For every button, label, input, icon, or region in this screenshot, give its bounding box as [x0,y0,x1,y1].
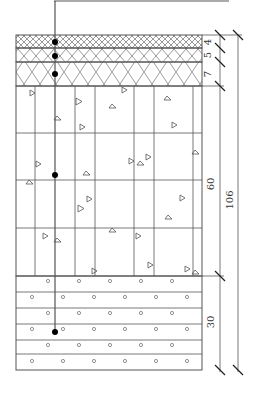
dim-label-total: 106 [224,190,235,209]
layer-3-coarse-crosshatch [16,62,202,86]
dim-label-layer-5: 30 [205,316,216,329]
dim-label-layer-4: 60 [205,178,216,191]
layer-1-fine-crosshatch [16,35,202,48]
dim-label-layer-2: 5 [202,52,213,58]
layer-2-medium-crosshatch [16,48,202,62]
sensor-dot-3 [52,71,58,77]
sensor-dot-2 [52,53,58,59]
soil-profile-diagram: 4 5 7 60 30 106 [0,0,258,393]
sensor-dot-4 [52,172,58,178]
dim-label-layer-3: 7 [202,71,213,77]
sensor-dot-1 [52,39,58,45]
dim-label-layer-1: 4 [202,39,213,45]
sensor-dot-5 [52,329,58,335]
layer-4-gravel [16,86,202,276]
gravel-triangles [26,87,199,274]
layer-5-sand [16,276,202,370]
